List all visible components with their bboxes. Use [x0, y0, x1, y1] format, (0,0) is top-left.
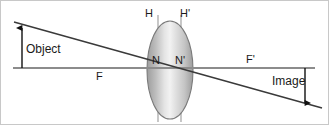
label-principal-plane-rear: H' — [180, 8, 190, 19]
label-focal-point-rear: F' — [246, 54, 255, 65]
label-nodal-point-front: N — [152, 55, 160, 66]
label-focal-point-front: F — [96, 71, 103, 82]
diagram-canvas — [0, 0, 329, 125]
label-principal-plane-front: H — [145, 8, 153, 19]
optics-diagram: H H' N N' F F' Object Image — [0, 0, 329, 125]
label-object: Object — [26, 43, 61, 55]
label-nodal-point-rear: N' — [175, 55, 185, 66]
label-image: Image — [272, 75, 305, 87]
